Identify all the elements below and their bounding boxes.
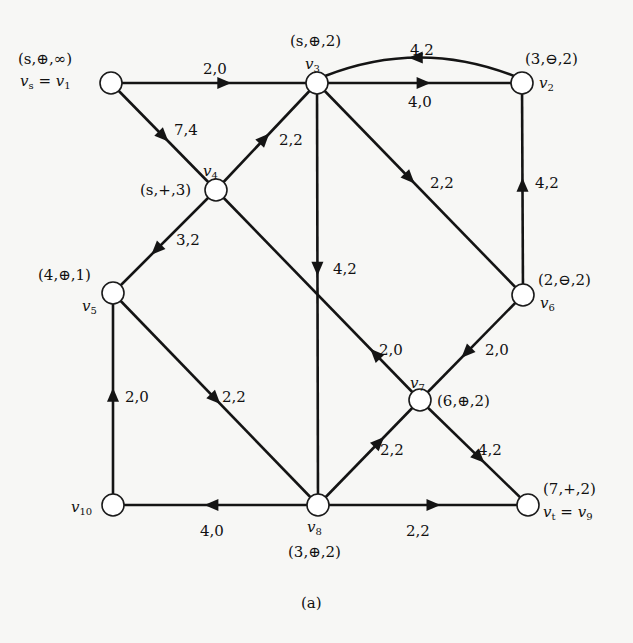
node-v3: [306, 72, 328, 94]
node-name-v8: v8: [307, 520, 322, 537]
edge-capacity-flow-label: 4,2: [535, 176, 559, 191]
edge-capacity-flow-label: 4,0: [408, 95, 432, 110]
node-label-tag-v7: (6,⊕,2): [437, 394, 490, 409]
edge-capacity-flow-label: 2,0: [125, 390, 149, 405]
node-name-v5: v5: [82, 299, 97, 316]
edge-capacity-flow-label: 3,2: [176, 233, 200, 248]
arrowhead-icon: [204, 499, 218, 511]
edge-v4-v5: [113, 190, 216, 293]
node-v9: [517, 494, 539, 516]
edge-capacity-flow-label: 2,2: [380, 443, 404, 458]
node-v10: [102, 494, 124, 516]
edge-capacity-flow-label: 4,0: [200, 524, 224, 539]
node-label-tag-v8: (3,⊕,2): [288, 545, 341, 560]
node-name-v7: v7: [410, 376, 425, 393]
node-name-v9: vt = v9: [543, 505, 593, 522]
node-v2: [511, 72, 533, 94]
node-name-v4: v4: [203, 164, 218, 181]
arrowhead-icon: [107, 388, 119, 402]
arrowhead-icon: [517, 178, 529, 192]
node-name-v2: v2: [539, 76, 554, 93]
node-name-v6: v6: [540, 296, 555, 313]
edge-capacity-flow-label: 2,0: [485, 343, 509, 358]
figure-caption: (a): [301, 596, 322, 611]
node-name-v10: v10: [71, 500, 92, 517]
edge-capacity-flow-label: 2,2: [279, 133, 303, 148]
node-label-tag-v5: (4,⊕,1): [38, 268, 91, 283]
edge-capacity-flow-label: 2,2: [406, 524, 430, 539]
edge-capacity-flow-label: 2,2: [430, 176, 454, 191]
edge-capacity-flow-label: 2,0: [203, 62, 227, 77]
node-label-tag-v9: (7,+,2): [543, 482, 596, 497]
edge-capacity-flow-label: 4,2: [478, 443, 502, 458]
edge-capacity-flow-label: 2,2: [222, 390, 246, 405]
edge-capacity-flow-label: 4,2: [333, 262, 357, 277]
node-v6: [512, 284, 534, 306]
node-label-tag-v6: (2,⊖,2): [538, 273, 591, 288]
node-name-v3: v3: [305, 57, 320, 74]
arrowhead-icon: [311, 262, 323, 276]
node-v4: [205, 179, 227, 201]
edge-capacity-flow-label: 2,0: [379, 343, 403, 358]
node-v1: [100, 72, 122, 94]
node-label-tag-v2: (3,⊖,2): [525, 52, 578, 67]
node-v8: [307, 494, 329, 516]
arrowhead-icon: [417, 77, 431, 89]
arrowhead-icon: [217, 77, 231, 89]
arrowhead-icon: [427, 499, 441, 511]
node-v5: [102, 282, 124, 304]
node-name-v1: vs = v1: [20, 74, 71, 91]
edge-capacity-flow-label: 7,4: [174, 123, 198, 138]
edge-capacity-flow-label: 4,2: [410, 43, 434, 58]
node-label-tag-v3: (s,⊕,2): [290, 34, 341, 49]
edge-v7-v9: [420, 400, 528, 505]
node-label-tag-v1: (s,⊕,∞): [18, 52, 72, 67]
node-label-tag-v4: (s,+,3): [140, 183, 191, 198]
edge-v8-v7: [318, 400, 420, 505]
